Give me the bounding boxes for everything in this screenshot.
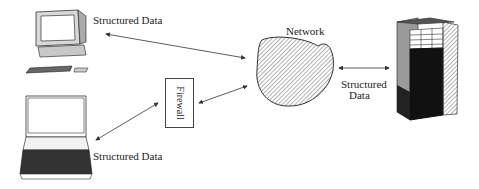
server-tower-icon bbox=[397, 18, 458, 120]
server-data-label-line2: Data bbox=[349, 89, 370, 101]
laptop-data-label: Structured Data bbox=[93, 150, 162, 162]
arrow-desktop-network bbox=[106, 34, 245, 58]
diagram-canvas bbox=[0, 0, 479, 189]
firewall-label: Firewall bbox=[174, 86, 185, 119]
laptop-icon bbox=[20, 96, 92, 179]
network-diagram: Structured Data Structured Data Network … bbox=[0, 0, 479, 189]
arrow-laptop-firewall bbox=[96, 103, 158, 140]
network-label: Network bbox=[286, 25, 325, 37]
desktop-computer-icon bbox=[26, 10, 88, 73]
network-cloud-icon bbox=[257, 37, 334, 106]
arrow-firewall-network bbox=[199, 86, 247, 103]
desktop-data-label: Structured Data bbox=[93, 14, 162, 26]
firewall-box: Firewall bbox=[165, 78, 194, 128]
